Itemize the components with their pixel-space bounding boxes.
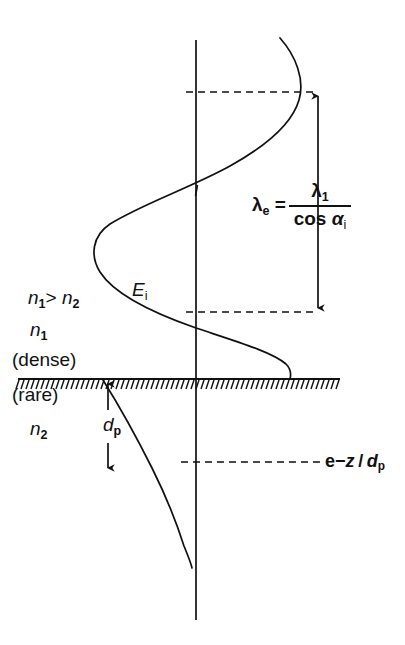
- figure-canvas: [0, 0, 405, 645]
- wavelength-formula-lhs: λe =: [252, 195, 286, 217]
- rare-medium-label: (rare): [12, 385, 58, 404]
- incident-field-label: Ei: [132, 280, 147, 302]
- evanescent-wave-figure: n1> n2 n1 (dense) (rare) n2 Ei dp e−z / …: [0, 0, 405, 645]
- dense-medium-label: (dense): [12, 350, 76, 369]
- decay-expression-label: e−z / dp: [325, 452, 385, 473]
- wavelength-formula-fraction: λ1 cos αi: [289, 180, 351, 231]
- wavelength-formula-numerator: λ1: [306, 180, 334, 205]
- medium-two-label: n2: [30, 419, 48, 441]
- interface-hatching: [16, 380, 339, 389]
- penetration-depth-label: dp: [103, 415, 121, 437]
- medium-one-label: n1: [30, 320, 48, 342]
- wavelength-formula-denominator: cos αi: [291, 207, 350, 232]
- evanescent-decay-curve: [103, 380, 192, 568]
- wavelength-formula-label: λe = λ1 cos αi: [252, 180, 351, 231]
- refractive-index-inequality-label: n1> n2: [28, 288, 80, 310]
